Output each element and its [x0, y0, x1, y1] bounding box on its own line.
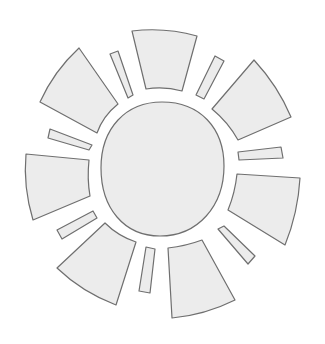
thin-ray-bottom-left — [57, 211, 97, 239]
thin-ray-bottom — [139, 247, 155, 293]
wide-ray-left — [25, 154, 90, 220]
thin-ray-top-left — [110, 51, 133, 98]
sun-diagram — [0, 0, 325, 344]
wide-ray-top-left — [40, 48, 118, 133]
thin-ray-bottom-right — [218, 226, 255, 264]
thin-ray-right — [238, 147, 283, 160]
wide-ray-bottom — [168, 240, 235, 318]
wide-ray-top — [132, 30, 197, 91]
thin-ray-left — [48, 129, 92, 150]
wide-ray-top-right — [212, 60, 291, 140]
thin-ray-top-right — [196, 56, 224, 99]
sun-disc — [101, 102, 224, 236]
wide-ray-right — [228, 174, 300, 245]
